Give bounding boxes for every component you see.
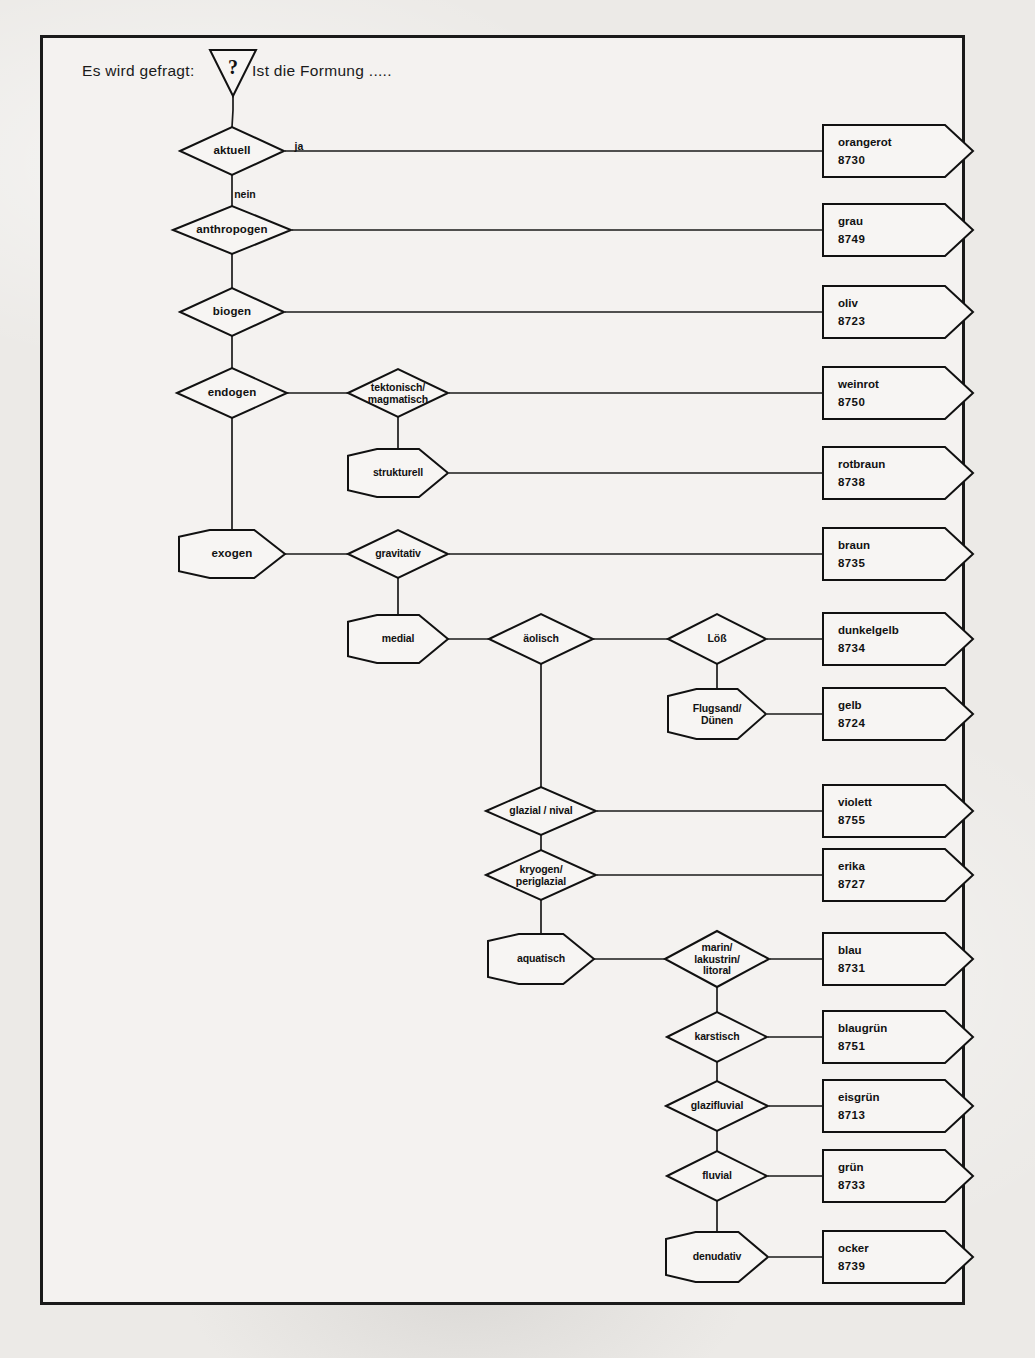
- result-text-grau: grau8749: [838, 212, 865, 248]
- result-text-weinrot: weinrot8750: [838, 375, 879, 411]
- result-code: 8735: [838, 554, 870, 572]
- result-code: 8751: [838, 1037, 887, 1055]
- result-code: 8733: [838, 1176, 865, 1194]
- result-color-name: ocker: [838, 1242, 869, 1254]
- result-text-braun: braun8735: [838, 536, 870, 572]
- result-color-name: orangerot: [838, 136, 892, 148]
- result-code: 8739: [838, 1257, 869, 1275]
- result-code: 8734: [838, 639, 899, 657]
- result-code: 8713: [838, 1106, 880, 1124]
- result-color-name: erika: [838, 860, 865, 872]
- result-text-gruen: grün8733: [838, 1158, 865, 1194]
- result-text-erika: erika8727: [838, 857, 865, 893]
- prompt-label-right: Ist die Formung .....: [252, 62, 392, 80]
- result-code: 8750: [838, 393, 879, 411]
- result-color-name: rotbraun: [838, 458, 885, 470]
- result-code: 8749: [838, 230, 865, 248]
- result-text-gelb: gelb8724: [838, 696, 865, 732]
- result-text-orangerot: orangerot8730: [838, 133, 892, 169]
- result-color-name: violett: [838, 796, 872, 808]
- result-text-blaugruen: blaugrün8751: [838, 1019, 887, 1055]
- result-code: 8723: [838, 312, 865, 330]
- prompt-label-left: Es wird gefragt:: [82, 62, 194, 80]
- result-color-name: grün: [838, 1161, 864, 1173]
- result-text-ocker: ocker8739: [838, 1239, 869, 1275]
- scanned-page: Es wird gefragt: ? Ist die Formung .....…: [0, 0, 1035, 1358]
- result-text-eisgruen: eisgrün8713: [838, 1088, 880, 1124]
- result-color-name: oliv: [838, 297, 858, 309]
- result-color-name: weinrot: [838, 378, 879, 390]
- result-text-blau: blau8731: [838, 941, 865, 977]
- result-text-dunkelgelb: dunkelgelb8734: [838, 621, 899, 657]
- result-text-oliv: oliv8723: [838, 294, 865, 330]
- result-code: 8731: [838, 959, 865, 977]
- question-mark-glyph: ?: [212, 56, 254, 79]
- result-color-name: eisgrün: [838, 1091, 880, 1103]
- result-code: 8724: [838, 714, 865, 732]
- result-color-name: dunkelgelb: [838, 624, 899, 636]
- result-text-rotbraun: rotbraun8738: [838, 455, 885, 491]
- result-color-name: blaugrün: [838, 1022, 887, 1034]
- diagram-frame: [40, 35, 965, 1305]
- edge-label-ja: ja: [295, 140, 304, 152]
- result-code: 8730: [838, 151, 892, 169]
- edge-label-nein: nein: [234, 188, 256, 200]
- result-code: 8738: [838, 473, 885, 491]
- result-text-violett: violett8755: [838, 793, 872, 829]
- result-color-name: braun: [838, 539, 870, 551]
- result-color-name: blau: [838, 944, 862, 956]
- result-code: 8727: [838, 875, 865, 893]
- result-color-name: grau: [838, 215, 863, 227]
- result-code: 8755: [838, 811, 872, 829]
- result-color-name: gelb: [838, 699, 862, 711]
